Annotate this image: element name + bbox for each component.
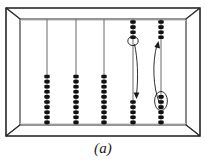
bead[interactable] (130, 121, 135, 125)
bead[interactable] (130, 110, 135, 114)
bead[interactable] (158, 36, 163, 40)
bead[interactable] (73, 75, 78, 79)
bead[interactable] (44, 100, 49, 104)
bead[interactable] (101, 95, 106, 99)
bead[interactable] (101, 90, 106, 94)
bead[interactable] (158, 116, 163, 120)
bead[interactable] (101, 110, 106, 114)
bead[interactable] (101, 80, 106, 84)
bead[interactable] (44, 110, 49, 114)
bead[interactable] (44, 90, 49, 94)
abacus-figure: (a) (0, 0, 206, 166)
bead[interactable] (158, 30, 163, 34)
bead[interactable] (44, 116, 49, 120)
frame-left-rail (6, 8, 20, 136)
bead[interactable] (73, 105, 78, 109)
bead[interactable] (158, 25, 163, 29)
bead[interactable] (130, 25, 135, 29)
bead-move-up-arrowhead (154, 41, 160, 49)
frame-right-rail (186, 8, 200, 136)
bead[interactable] (44, 95, 49, 99)
bead[interactable] (44, 75, 49, 79)
bead[interactable] (44, 121, 49, 125)
bead[interactable] (158, 95, 163, 99)
bead[interactable] (101, 75, 106, 79)
bead[interactable] (158, 121, 163, 125)
bead[interactable] (73, 110, 78, 114)
bead[interactable] (158, 105, 163, 109)
bead[interactable] (44, 85, 49, 89)
bead[interactable] (73, 95, 78, 99)
bead[interactable] (101, 116, 106, 120)
bead[interactable] (73, 85, 78, 89)
bead[interactable] (101, 100, 106, 104)
frame-bottom-rail (6, 125, 200, 136)
bead[interactable] (130, 105, 135, 109)
bead[interactable] (73, 116, 78, 120)
bead-move-down-arrowhead (134, 93, 140, 100)
bead[interactable] (130, 100, 135, 104)
abacus-diagram (0, 0, 206, 142)
bead[interactable] (73, 121, 78, 125)
bead[interactable] (44, 105, 49, 109)
bead-move-down-arrow (135, 44, 138, 95)
figure-caption: (a) (0, 140, 206, 157)
bead[interactable] (158, 20, 163, 24)
bead[interactable] (101, 105, 106, 109)
abacus-rods (47, 19, 161, 125)
bead[interactable] (73, 80, 78, 84)
bead[interactable] (101, 85, 106, 89)
bead[interactable] (101, 121, 106, 125)
bead[interactable] (130, 116, 135, 120)
bead[interactable] (73, 100, 78, 104)
bead[interactable] (130, 20, 135, 24)
bead[interactable] (130, 30, 135, 34)
bead[interactable] (73, 90, 78, 94)
frame-top-rail (6, 8, 200, 19)
bead[interactable] (44, 80, 49, 84)
